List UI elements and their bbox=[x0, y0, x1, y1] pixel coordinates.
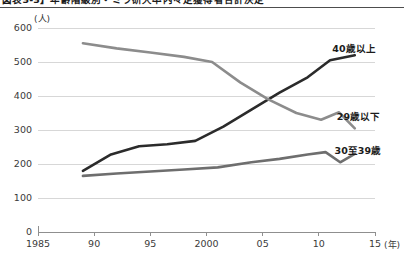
y-tick-label: 300 bbox=[6, 124, 32, 135]
series-label-1: 40歳以上 bbox=[332, 41, 375, 55]
y-tick-label: 400 bbox=[6, 90, 32, 101]
x-tick-label: 1985 bbox=[26, 238, 50, 249]
line-chart: 0100200300400500600(人)198590952000051015… bbox=[0, 0, 404, 265]
y-axis-unit-label: (人) bbox=[34, 12, 50, 25]
x-tick-label: 2000 bbox=[194, 238, 218, 249]
y-tick-label: 500 bbox=[6, 56, 32, 67]
series-line-2 bbox=[83, 43, 355, 128]
y-tick-label: 0 bbox=[6, 226, 32, 237]
y-tick-label: 100 bbox=[6, 192, 32, 203]
x-tick-label: 90 bbox=[88, 238, 100, 249]
series-label-3: 30至39歳 bbox=[335, 143, 381, 157]
x-tick-label: 95 bbox=[144, 238, 156, 249]
x-tick-label: 05 bbox=[257, 238, 269, 249]
y-tick-label: 200 bbox=[6, 158, 32, 169]
y-tick-label: 600 bbox=[6, 22, 32, 33]
x-axis-unit-label: (年) bbox=[384, 238, 400, 251]
series-label-2: 29歳以下 bbox=[337, 109, 380, 123]
x-tick-label: 10 bbox=[313, 238, 325, 249]
x-tick-label: 15 bbox=[369, 238, 381, 249]
